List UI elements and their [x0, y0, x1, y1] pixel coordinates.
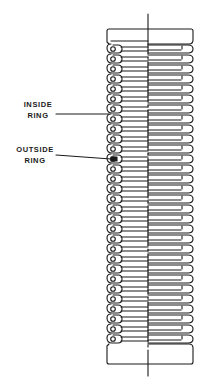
right-convolution: [148, 305, 193, 313]
ring: [111, 117, 116, 122]
left-convolution: [107, 294, 122, 303]
ring: [111, 57, 116, 62]
left-convolution: [107, 234, 122, 243]
right-convolution: [148, 255, 193, 263]
left-convolution: [107, 314, 122, 323]
right-convolution: [148, 115, 193, 123]
right-convolution: [148, 195, 193, 203]
right-convolution: [148, 95, 193, 103]
left-convolution: [107, 94, 122, 103]
right-convolution: [148, 185, 193, 193]
ring: [111, 147, 116, 152]
left-convolution: [107, 174, 122, 183]
left-convolution: [107, 144, 122, 153]
right-convolution: [148, 225, 193, 233]
bottom-flange: [107, 344, 193, 364]
inside-ring-label-line2: RING: [18, 110, 58, 121]
ring: [111, 177, 116, 182]
ring: [111, 237, 116, 242]
right-convolution: [148, 45, 193, 53]
left-convolution: [107, 134, 122, 143]
right-convolution: [148, 215, 193, 223]
right-convolution: [148, 65, 193, 73]
ring: [111, 337, 116, 342]
left-convolution: [107, 334, 122, 343]
outside-ring-label: OUTSIDE RING: [12, 144, 58, 166]
left-convolution: [107, 84, 122, 93]
ring: [111, 207, 116, 212]
left-convolution: [107, 214, 122, 223]
ring: [111, 307, 116, 312]
ring: [111, 257, 116, 262]
left-convolution: [107, 104, 122, 113]
ring: [111, 277, 116, 282]
right-convolution: [148, 325, 193, 333]
right-convolution: [148, 245, 193, 253]
right-convolution: [148, 55, 193, 63]
ring: [111, 267, 116, 272]
left-convolution: [107, 54, 122, 63]
right-convolution: [148, 315, 193, 323]
ring: [111, 137, 116, 142]
left-convolution: [107, 264, 122, 273]
left-convolution: [107, 164, 122, 173]
right-convolution: [148, 275, 193, 283]
left-convolution: [107, 194, 122, 203]
left-convolution: [107, 44, 122, 53]
ring: [111, 187, 116, 192]
ring: [111, 97, 116, 102]
left-convolution: [107, 184, 122, 193]
left-convolution: [107, 254, 122, 263]
ring: [111, 77, 116, 82]
ring: [111, 127, 116, 132]
right-convolution: [148, 165, 193, 173]
ring: [111, 317, 116, 322]
right-convolution: [148, 135, 193, 143]
left-convolution: [107, 74, 122, 83]
ring: [111, 327, 116, 332]
outside-ring-label-line2: RING: [12, 155, 58, 166]
left-convolution: [107, 224, 122, 233]
right-convolution: [148, 265, 193, 273]
inside-ring-label: INSIDE RING: [18, 99, 58, 121]
ring: [111, 87, 116, 92]
right-convolution: [148, 295, 193, 303]
right-convolution: [148, 205, 193, 213]
right-convolution: [148, 175, 193, 183]
bellows-diagram: [0, 0, 216, 385]
ring: [111, 67, 116, 72]
right-convolution: [148, 125, 193, 133]
left-convolution: [107, 304, 122, 313]
left-convolution: [107, 204, 122, 213]
right-convolution: [148, 285, 193, 293]
outside-ring-label-line1: OUTSIDE: [12, 144, 58, 155]
ring: [111, 167, 116, 172]
outside-ring-fill: [111, 157, 117, 161]
bellows-drawing: [56, 14, 193, 376]
right-convolution: [148, 145, 193, 153]
right-convolution: [148, 235, 193, 243]
ring: [111, 107, 116, 112]
left-convolution: [107, 274, 122, 283]
ring: [111, 217, 116, 222]
ring: [111, 197, 116, 202]
inside-ring-label-line1: INSIDE: [18, 99, 58, 110]
right-convolution: [148, 85, 193, 93]
top-flange: [107, 29, 193, 44]
left-convolution: [107, 244, 122, 253]
ring: [111, 227, 116, 232]
outside-ring-leader: [56, 155, 111, 159]
left-convolution: [107, 114, 122, 123]
left-convolution: [107, 284, 122, 293]
ring: [111, 297, 116, 302]
right-convolution: [148, 75, 193, 83]
left-convolution: [107, 324, 122, 333]
right-convolution: [148, 155, 193, 163]
right-convolution: [148, 105, 193, 113]
left-convolution: [107, 64, 122, 73]
right-convolution: [148, 335, 193, 343]
ring: [111, 247, 116, 252]
ring: [111, 47, 116, 52]
ring: [111, 287, 116, 292]
left-convolution: [107, 124, 122, 133]
